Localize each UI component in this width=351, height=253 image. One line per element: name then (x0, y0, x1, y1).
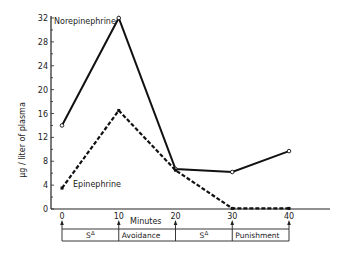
x-tick-label: 20 (170, 212, 180, 221)
y-tick-label: 24 (38, 62, 48, 71)
y-tick-label: 8 (43, 157, 48, 166)
x-tick-label: 30 (227, 212, 237, 221)
x-axis-label: Minutes (130, 217, 162, 226)
y-tick-label: 4 (43, 181, 48, 190)
phase-label: Punishment (235, 231, 279, 240)
y-tick-label: 16 (38, 110, 48, 119)
y-tick-label: 0 (43, 205, 48, 214)
line-chart: 048121620242832010203040 NorepinephrineE… (0, 0, 351, 253)
series-label-norepinephrine: Norepinephrine (54, 17, 116, 26)
series-line-norepinephrine (62, 18, 289, 172)
series-line-epinephrine (62, 111, 289, 209)
data-point-marker (231, 207, 234, 210)
x-tick-label: 10 (114, 212, 124, 221)
y-tick-label: 32 (38, 14, 48, 23)
phase-label: SΔ (200, 230, 209, 240)
phase-label: SΔ (86, 230, 95, 240)
series-labels: NorepinephrineEpinephrine (54, 17, 121, 189)
data-point-marker (117, 109, 120, 112)
phase-timeline: SΔAvoidanceSΔPunishment (60, 220, 291, 241)
x-tick-label: 40 (284, 212, 294, 221)
x-tick-label: 0 (59, 212, 64, 221)
y-axis-label: μg / liter of plasma (18, 102, 27, 178)
data-point-marker (117, 16, 121, 20)
data-point-marker (287, 149, 291, 153)
series-label-epinephrine: Epinephrine (73, 180, 121, 189)
y-tick-label: 28 (38, 38, 48, 47)
data-point-marker (288, 207, 291, 210)
data-point-marker (230, 170, 234, 174)
data-point-marker (174, 169, 177, 172)
data-point-marker (60, 124, 64, 128)
y-tick-label: 12 (38, 133, 48, 142)
phase-label-superscript: Δ (91, 230, 95, 236)
phase-label-superscript: Δ (204, 230, 208, 236)
y-tick-label: 20 (38, 86, 48, 95)
data-point-marker (61, 187, 64, 190)
phase-label: Avoidance (122, 231, 161, 240)
axes: 048121620242832010203040 (38, 14, 330, 221)
chart-container: 048121620242832010203040 NorepinephrineE… (0, 0, 351, 253)
